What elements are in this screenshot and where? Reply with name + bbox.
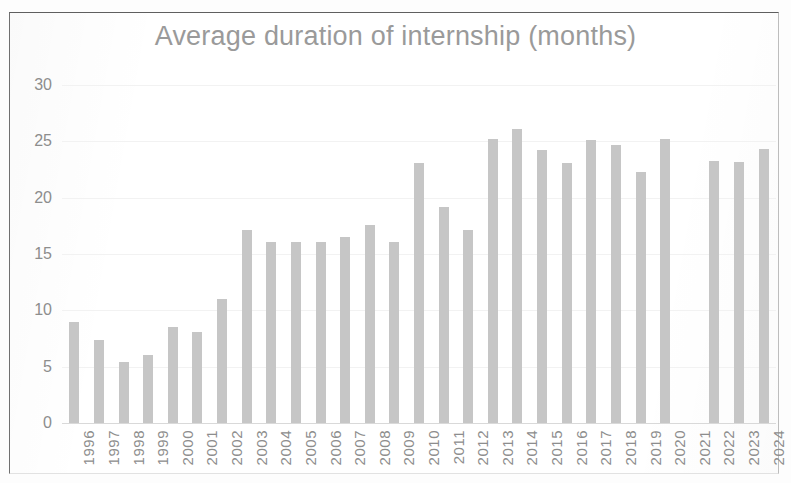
- bar: [734, 162, 744, 423]
- gridline: [62, 85, 776, 86]
- bar: [586, 140, 596, 423]
- bar: [192, 332, 202, 423]
- bar: [94, 340, 104, 423]
- bar: [316, 242, 326, 423]
- bar: [291, 242, 301, 423]
- chart-title: Average duration of internship (months): [0, 21, 791, 52]
- bar: [512, 129, 522, 423]
- x-axis-line: [62, 423, 776, 424]
- bar: [242, 230, 252, 423]
- chart-page: Average duration of internship (months) …: [0, 0, 791, 483]
- bar: [143, 355, 153, 423]
- bar: [389, 242, 399, 423]
- bar: [463, 230, 473, 423]
- bar: [709, 161, 719, 424]
- bar: [119, 362, 129, 423]
- bar: [69, 322, 79, 423]
- bar: [537, 150, 547, 423]
- bar: [217, 299, 227, 423]
- bar: [340, 237, 350, 423]
- bar: [759, 149, 769, 423]
- bar: [365, 225, 375, 423]
- bar: [439, 207, 449, 423]
- bar: [611, 145, 621, 423]
- bar: [636, 172, 646, 423]
- bar: [562, 163, 572, 423]
- bar: [488, 139, 498, 423]
- bar: [266, 242, 276, 423]
- bar: [168, 327, 178, 423]
- bar: [660, 139, 670, 423]
- plot-area: [62, 85, 776, 423]
- bar: [414, 163, 424, 423]
